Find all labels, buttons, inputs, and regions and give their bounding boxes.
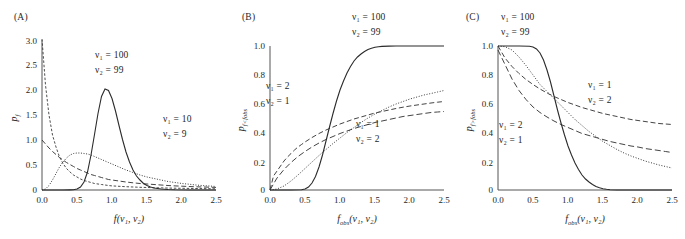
panel-b-annotation-1: ν₁ = 100 ν₂ = 99 (352, 10, 386, 40)
x-tick-2: 1.0 (562, 195, 574, 205)
panel-c-annotation-1: ν₁ = 100 ν₂ = 99 (501, 10, 535, 40)
y-tick-4: 2.0 (26, 85, 38, 95)
x-tick-4: 2.0 (632, 195, 644, 205)
panel-c-annotation-3: ν₁ = 2 ν₂ = 1 (499, 118, 523, 148)
panel-c-annotation-1-line2: ν₂ = 99 (501, 25, 535, 40)
x-tick-5: 2.5 (666, 195, 678, 205)
x-tick-0: 0.0 (264, 195, 276, 205)
x-tick-1: 0.5 (527, 195, 539, 205)
panel-a-y-axis-title: pf (8, 113, 21, 122)
panel-b-x-axis-title: fobs(ν₁, ν₂) (337, 213, 377, 226)
panel-b-annotation-1-line1: ν₁ = 100 (352, 10, 386, 25)
panel-a-x-axis-title: f(ν₁, ν₂) (114, 213, 145, 225)
x-tick-0: 0.0 (492, 195, 504, 205)
y-tick-5: 1.0 (482, 41, 494, 51)
curve-a-dotted (42, 153, 216, 190)
panel-c-plot: 0 0.2 0.4 0.6 0.8 1.0 0.0 0.5 1.0 1.5 2.… (456, 0, 684, 239)
y-tick-4: 0.8 (482, 70, 494, 80)
y-tick-3: 0.6 (254, 99, 266, 109)
panel-c-y-axis-title: pf>fobs (463, 108, 476, 132)
y-tick-4: 0.8 (254, 70, 266, 80)
y-tick-0: 0 (33, 185, 38, 195)
panel-b-annotation-3: ν₁ = 1 ν₂ = 2 (356, 117, 380, 147)
panel-c-annotation-3-line1: ν₁ = 2 (499, 118, 523, 133)
curve-c-dash-1-2 (498, 46, 672, 125)
figure-f-distributions: (A) 0 0.5 1.0 1.5 2.0 2.5 3.0 0.0 0.5 1.… (0, 0, 685, 239)
y-tick-3: 0.6 (482, 99, 494, 109)
panel-a-annotation-2-line2: ν₂ = 9 (163, 127, 192, 142)
panel-b-annotation-2: ν₁ = 2 ν₂ = 1 (266, 79, 290, 109)
panel-b-y-axis-title: pf<fobs (235, 108, 248, 132)
panel-b: (B) 0 0.2 0.4 0.6 0.8 1.0 0.0 0.5 1.0 1.… (228, 0, 456, 239)
x-tick-5: 2.5 (438, 195, 450, 205)
y-tick-6: 3.0 (26, 36, 38, 46)
x-tick-3: 1.5 (141, 195, 153, 205)
y-tick-2: 1.0 (26, 135, 38, 145)
svg-text:pf: pf (8, 113, 21, 122)
curve-a-broad-dashed (42, 140, 216, 187)
curve-c-dash-2-1 (498, 50, 672, 153)
y-tick-3: 1.5 (26, 110, 38, 120)
y-tick-1: 0.2 (482, 158, 493, 168)
panel-a-annotation-2: ν₁ = 10 ν₂ = 9 (163, 112, 192, 142)
y-tick-5: 2.5 (26, 60, 38, 70)
x-tick-5: 2.5 (210, 195, 222, 205)
y-tick-2: 0.4 (482, 128, 494, 138)
x-tick-0: 0.0 (36, 195, 48, 205)
panel-b-annotation-2-line1: ν₁ = 2 (266, 79, 290, 94)
panel-c: (C) 0 0.2 0.4 0.6 0.8 1.0 0.0 0.5 1.0 1.… (456, 0, 684, 239)
panel-b-annotation-3-line1: ν₁ = 1 (356, 117, 380, 132)
y-tick-2: 0.4 (254, 128, 266, 138)
y-tick-1: 0.2 (254, 158, 265, 168)
x-tick-4: 2.0 (176, 195, 188, 205)
curve-c-dotted (498, 46, 672, 168)
curve-c-solid (498, 46, 672, 190)
panel-c-annotation-2-line1: ν₁ = 1 (588, 78, 612, 93)
panel-a-annotation-1-line2: ν₂ = 99 (95, 63, 129, 78)
panel-b-annotation-3-line2: ν₂ = 2 (356, 132, 380, 147)
panel-a-annotation-1: ν₁ = 100 ν₂ = 99 (95, 48, 129, 78)
panel-c-annotation-2-line2: ν₂ = 2 (588, 93, 612, 108)
panel-b-annotation-1-line2: ν₂ = 99 (352, 25, 386, 40)
x-tick-3: 1.5 (369, 195, 381, 205)
svg-text:pf>fobs: pf>fobs (463, 108, 476, 132)
panel-c-annotation-3-line2: ν₂ = 1 (499, 133, 523, 148)
panel-a-plot: 0 0.5 1.0 1.5 2.0 2.5 3.0 0.0 0.5 1.0 1.… (0, 0, 228, 239)
x-tick-1: 0.5 (71, 195, 83, 205)
x-tick-3: 1.5 (597, 195, 609, 205)
x-tick-1: 0.5 (299, 195, 311, 205)
y-tick-0: 0 (261, 185, 266, 195)
panel-c-annotation-1-line1: ν₁ = 100 (501, 10, 535, 25)
panel-c-x-axis-title: fobs(ν₁, ν₂) (565, 213, 605, 226)
y-tick-5: 1.0 (254, 41, 266, 51)
panel-c-annotation-2: ν₁ = 1 ν₂ = 2 (588, 78, 612, 108)
x-tick-4: 2.0 (404, 195, 416, 205)
panel-b-annotation-2-line2: ν₂ = 1 (266, 94, 290, 109)
y-tick-0: 0 (489, 185, 494, 195)
svg-text:pf<fobs: pf<fobs (235, 108, 248, 132)
panel-a-annotation-2-line1: ν₁ = 10 (163, 112, 192, 127)
panel-a: (A) 0 0.5 1.0 1.5 2.0 2.5 3.0 0.0 0.5 1.… (0, 0, 228, 239)
x-tick-2: 1.0 (334, 195, 346, 205)
y-tick-1: 0.5 (26, 160, 38, 170)
x-tick-2: 1.0 (106, 195, 118, 205)
panel-a-annotation-1-line1: ν₁ = 100 (95, 48, 129, 63)
panel-b-plot: 0 0.2 0.4 0.6 0.8 1.0 0.0 0.5 1.0 1.5 2.… (228, 0, 456, 239)
